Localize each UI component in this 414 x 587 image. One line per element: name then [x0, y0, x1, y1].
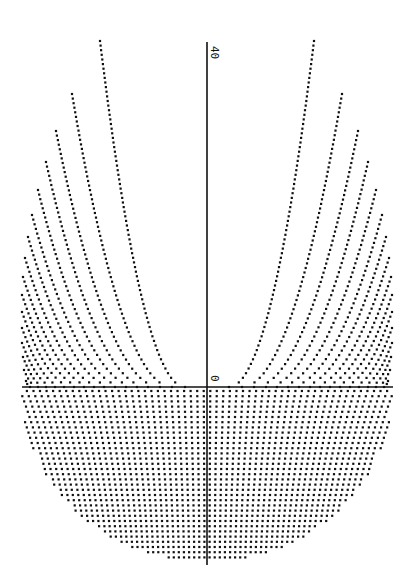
parabola-family-plot: 40 0	[0, 0, 414, 587]
tick-label-0: 0	[208, 375, 221, 382]
tick-label-40: 40	[208, 46, 221, 59]
